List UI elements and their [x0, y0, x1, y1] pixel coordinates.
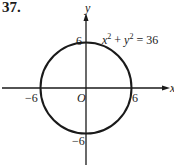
y-axis-label: y: [85, 2, 90, 14]
x-tick-negative: −6: [25, 92, 38, 104]
y-tick-negative: −6: [72, 135, 85, 147]
x-axis-arrow-icon: [162, 86, 170, 91]
circle-equation: x2 + y2 = 36: [102, 34, 158, 46]
problem-number: 37.: [2, 0, 21, 15]
x-axis-label: x: [170, 82, 174, 94]
circle-graph-figure: 37. y x 6 −6 O 6 −6 x2 + y2 = 36: [0, 0, 174, 165]
y-tick-positive: 6: [76, 35, 82, 47]
x-tick-positive: 6: [132, 92, 138, 104]
equation-rhs: = 36: [133, 33, 158, 47]
graph-canvas: [0, 0, 174, 165]
equation-plus: +: [111, 33, 124, 47]
origin-label: O: [77, 92, 86, 104]
